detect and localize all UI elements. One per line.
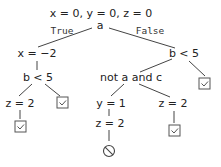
edge-label-false: False — [136, 25, 165, 36]
node-rr-assign-z: z = 2 — [159, 97, 188, 110]
node-left-cond: b < 5 — [23, 71, 53, 84]
node-right-inner-cond: not a and c — [100, 71, 162, 84]
edge-label-true: True — [51, 25, 74, 36]
root-condition: a — [97, 19, 104, 32]
prohibited-icon — [104, 146, 115, 157]
node-rl-assign-z: z = 2 — [96, 117, 125, 130]
node-rl-assign-y: y = 1 — [96, 97, 126, 110]
check-box-icon — [57, 97, 68, 108]
edge-inner-cond-left — [111, 84, 124, 96]
edge-inner-cond-right — [139, 84, 170, 97]
check-box-icon — [169, 125, 180, 136]
node-right-cond: b < 5 — [169, 47, 199, 60]
node-left-assign: x = −2 — [18, 47, 57, 60]
edge-left-cond-right — [45, 84, 60, 96]
edge-left-cond-left — [19, 84, 32, 96]
edge-right-cond-right — [189, 61, 205, 76]
decision-tree-diagram: x = 0, y = 0, z = 0 a True False x = −2 … — [0, 0, 221, 167]
check-box-icon — [15, 121, 26, 132]
check-box-icon — [199, 78, 210, 89]
node-left-left-assign: z = 2 — [6, 97, 35, 110]
